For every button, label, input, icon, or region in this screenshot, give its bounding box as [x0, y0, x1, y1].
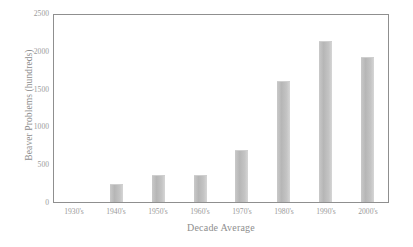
bar-slot [138, 15, 180, 202]
x-axis-tick-label: 1950's [137, 206, 179, 218]
x-axis-tick-label: 1970's [221, 206, 263, 218]
bar-slot [54, 15, 96, 202]
bar [277, 81, 290, 202]
bar-slot [221, 15, 263, 202]
y-axis-tick-label: 1500 [28, 86, 49, 94]
y-axis-tick-label: 0 [28, 199, 49, 207]
plot-area [53, 14, 389, 203]
bar-slot [263, 15, 305, 202]
x-axis-tick-label: 2000's [347, 206, 389, 218]
x-axis-tick-label: 1960's [179, 206, 221, 218]
x-axis-tick-label: 1980's [263, 206, 305, 218]
bar [361, 57, 374, 202]
y-axis-tick-label: 500 [28, 161, 49, 169]
bar [194, 175, 207, 202]
x-axis-tick-label: 1990's [305, 206, 347, 218]
x-axis-tick-labels: 1930's1940's1950's1960's1970's1980's1990… [53, 206, 389, 218]
y-axis-tick-labels: 05001000150020002500 [28, 0, 49, 247]
x-axis-tick-label: 1940's [95, 206, 137, 218]
bar-slot [305, 15, 347, 202]
bar [152, 175, 165, 202]
x-axis-tick-label: 1930's [53, 206, 95, 218]
bar-slot [96, 15, 138, 202]
bar [110, 184, 123, 202]
bar-slot [346, 15, 388, 202]
bar [235, 150, 248, 202]
bar-chart: Beaver Problems (hundreds) 0500100015002… [0, 0, 413, 247]
y-axis-tick-label: 1000 [28, 123, 49, 131]
bar [319, 41, 332, 202]
bars-container [54, 15, 388, 202]
y-axis-tick-label: 2500 [28, 10, 49, 18]
y-axis-tick-label: 2000 [28, 48, 49, 56]
bar-slot [179, 15, 221, 202]
x-axis-title: Decade Average [53, 222, 389, 233]
